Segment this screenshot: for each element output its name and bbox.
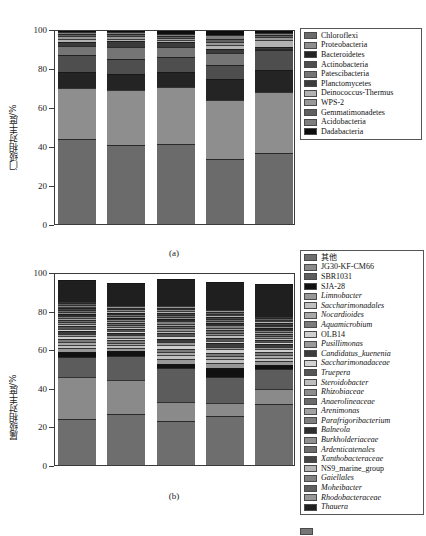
legend-item[interactable]: Chloroflexi (304, 31, 418, 41)
legend-item[interactable]: Nocardioides (304, 311, 420, 321)
stacked-bar[interactable] (107, 273, 145, 465)
bar-segment (107, 329, 145, 331)
bar-segment (58, 419, 96, 465)
legend-item[interactable]: Parafrigoribacterium (304, 416, 420, 426)
y-axis-tick-label: 40 (38, 143, 47, 152)
stacked-bar[interactable] (157, 30, 195, 224)
panel-a-phylum-chart: 门级相对丰度/% 020406080100 UASB-0UASB-1UASB-2… (0, 0, 426, 268)
bar-segment (107, 356, 145, 379)
bar-segment (206, 312, 244, 314)
legend-item[interactable]: Dadabacteria (304, 127, 418, 137)
legend-item[interactable]: Rhizobiaceae (304, 387, 420, 397)
legend-item[interactable]: Burkholderiaceae (304, 435, 420, 445)
bar-segment (107, 314, 145, 316)
legend-swatch-icon (304, 465, 317, 472)
bar-segment (58, 42, 96, 46)
legend-item[interactable]: Gemmatimonadetes (304, 108, 418, 118)
bar-segment (58, 345, 96, 348)
legend-item[interactable]: Saccharimonadaceae (304, 359, 420, 369)
bar-segment (206, 347, 244, 350)
legend-swatch-icon (304, 293, 317, 300)
bar-segment (206, 53, 244, 65)
bar-segment (58, 334, 96, 337)
legend-item[interactable]: Limnobacter (304, 291, 420, 301)
legend-item[interactable]: Balneola (304, 426, 420, 436)
legend-item[interactable]: Saccharimonadales (304, 301, 420, 311)
bar-segment (255, 404, 293, 465)
legend-item[interactable]: Rhodobacteraceae (304, 493, 420, 503)
bar-segment (107, 380, 145, 414)
stacked-bar[interactable] (107, 30, 145, 224)
legend-label: Moheibacter (321, 484, 362, 492)
legend-item[interactable]: 其他 (304, 253, 420, 263)
stacked-bar[interactable] (255, 273, 293, 465)
stacked-bar[interactable] (157, 273, 195, 465)
legend-item[interactable]: Planctomycetes (304, 79, 418, 89)
legend-item[interactable]: JG30-KF-CM66 (304, 263, 420, 273)
bar-segment (107, 325, 145, 327)
legend-label: Rhodobacteraceae (321, 494, 381, 502)
panel-b-caption: (b) (169, 491, 180, 501)
legend-swatch-icon (304, 302, 317, 309)
legend-item[interactable]: Anaerolineaceae (304, 397, 420, 407)
legend-item[interactable]: NS9_marine_group (304, 464, 420, 474)
legend-item[interactable]: Proteobacteria (304, 41, 418, 51)
bar-segment (58, 32, 96, 34)
legend-item[interactable]: Arenimonas (304, 407, 420, 417)
legend-item[interactable]: Pusillimonas (304, 339, 420, 349)
bar-segment (157, 339, 195, 342)
legend-swatch-icon (304, 350, 317, 357)
bar-segment (255, 50, 293, 69)
stacked-bar[interactable] (206, 30, 244, 224)
bar-segment (58, 308, 96, 310)
legend-item[interactable]: Ardenticatenales (304, 445, 420, 455)
legend-item[interactable]: Thauera (304, 502, 420, 512)
bar-segment (58, 312, 96, 314)
bar-segment (107, 283, 145, 306)
stacked-bar[interactable] (206, 273, 244, 465)
legend-item[interactable]: Bacteroidetes (304, 50, 418, 60)
bar-segment (255, 338, 293, 340)
legend-swatch-icon (300, 528, 313, 535)
legend-item[interactable]: Deinococcus-Thermus (304, 89, 418, 99)
legend-item[interactable]: Xanthobacteraceae (304, 454, 420, 464)
legend-item[interactable]: Gaiellales (304, 474, 420, 484)
legend-swatch-icon (304, 51, 317, 58)
legend-label: Balneola (321, 426, 350, 434)
legend-label: OLB14 (321, 331, 345, 339)
legend-label: Aquamicrobium (321, 321, 372, 329)
bar-segment (255, 336, 293, 338)
legend-swatch-icon (304, 417, 317, 424)
bar-segment (58, 336, 96, 339)
panel-b-y-axis: 020406080100 (30, 273, 54, 466)
legend-item[interactable]: Truepera (304, 368, 420, 378)
legend-item[interactable]: WPS-2 (304, 98, 418, 108)
bar-segment (58, 36, 96, 38)
stacked-bar[interactable] (58, 273, 96, 465)
legend-item[interactable]: Moheibacter (304, 483, 420, 493)
bar-segment (58, 72, 96, 88)
bar-segment (58, 316, 96, 318)
legend-item[interactable]: SBR1031 (304, 272, 420, 282)
legend-item[interactable]: Actinobacteria (304, 60, 418, 70)
legend-swatch-icon (304, 283, 317, 290)
legend-item[interactable]: Candidatus_kuenenia (304, 349, 420, 359)
bar-segment (206, 349, 244, 353)
legend-item[interactable]: Steroidobacter (304, 378, 420, 388)
bar-segment (255, 369, 293, 389)
legend-item[interactable]: Patescibacteria (304, 69, 418, 79)
y-axis-tick-label: 60 (38, 104, 47, 113)
legend-item[interactable]: SJA-28 (304, 282, 420, 292)
legend-item[interactable]: Acidobacteria (304, 117, 418, 127)
stacked-bar[interactable] (58, 30, 96, 224)
bar-segment (157, 333, 195, 336)
legend-item[interactable]: OLB14 (304, 330, 420, 340)
legend-swatch-icon (304, 427, 317, 434)
bar-segment (255, 355, 293, 358)
bar-segment (206, 325, 244, 327)
stacked-bar[interactable] (255, 30, 293, 224)
legend-item[interactable] (300, 527, 424, 536)
bar-segment (58, 357, 96, 377)
legend-item[interactable]: Aquamicrobium (304, 320, 420, 330)
bar-segment (255, 389, 293, 404)
